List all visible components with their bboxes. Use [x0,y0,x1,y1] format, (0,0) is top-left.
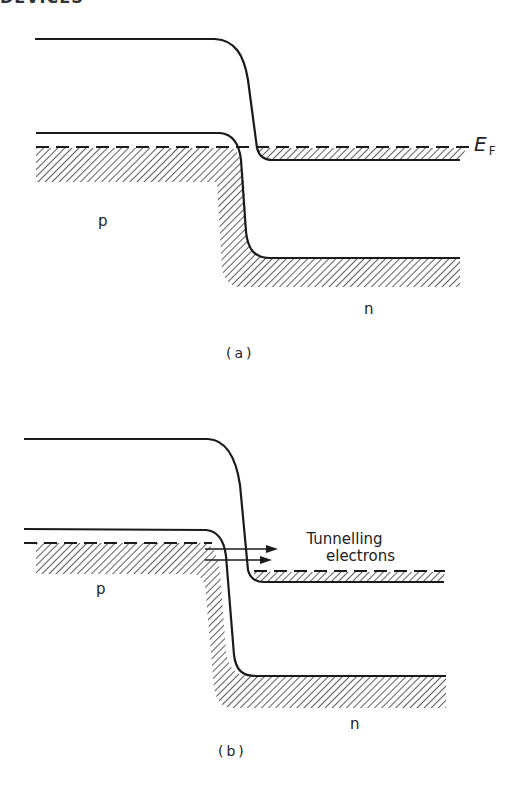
panel-b-diagram [24,439,446,708]
fermi-level-label: EF [474,134,496,157]
p-region-label-b: p [96,582,106,597]
tunnelling-electrons-label: Tunnelling electrons [300,531,395,565]
caption-b: (b) [218,744,247,758]
n-region-label-a: n [364,302,374,317]
n-conduction-hatch [258,148,466,160]
n-region-label-b: n [350,717,360,732]
n-conduction-hatch-b [254,572,445,582]
panel-a-diagram [35,39,470,287]
band-diagram-figure [0,0,512,787]
caption-a: (a) [226,346,255,360]
page-header-partial: DEVICES [0,0,84,6]
conduction-band-edge [35,39,460,160]
p-valence-hatch-b [36,543,446,708]
p-region-label-a: p [98,214,108,229]
